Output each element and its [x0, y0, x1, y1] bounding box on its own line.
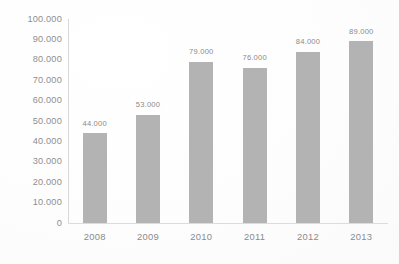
y-axis-tick-label: 10.000	[0, 198, 62, 207]
bar-group: 44.000	[68, 19, 121, 223]
bar-group: 84.000	[281, 19, 334, 223]
plot-area: 44.00053.00079.00076.00084.00089.000	[68, 19, 388, 223]
bar-group: 89.000	[335, 19, 388, 223]
x-axis-tick-label: 2011	[229, 232, 281, 241]
bar-value-label: 44.000	[65, 120, 125, 128]
y-axis-tick-label: 100.000	[0, 15, 62, 24]
x-axis: 200820092010201120122013	[68, 232, 388, 254]
y-axis-tick-label: 40.000	[0, 137, 62, 146]
x-axis-tick-label: 2013	[335, 232, 387, 241]
bar-value-label: 84.000	[278, 38, 338, 46]
x-axis-tick-label: 2008	[69, 232, 121, 241]
bar[interactable]	[136, 115, 160, 223]
y-axis-tick-label: 0	[0, 219, 62, 228]
y-axis-tick-label: 20.000	[0, 178, 62, 187]
bar-group: 79.000	[175, 19, 228, 223]
bar-value-label: 79.000	[171, 48, 231, 56]
y-axis-tick-label: 80.000	[0, 55, 62, 64]
bar-chart: 010.00020.00030.00040.00050.00060.00070.…	[0, 0, 399, 264]
bar[interactable]	[349, 41, 373, 223]
bar-value-label: 89.000	[331, 28, 391, 36]
bar-value-label: 53.000	[118, 101, 178, 109]
x-axis-baseline	[68, 223, 388, 224]
y-axis-tick-label: 30.000	[0, 157, 62, 166]
y-axis: 010.00020.00030.00040.00050.00060.00070.…	[0, 0, 62, 264]
bar[interactable]	[83, 133, 107, 223]
y-axis-tick-label: 60.000	[0, 96, 62, 105]
x-axis-tick-label: 2010	[175, 232, 227, 241]
bar-group: 76.000	[228, 19, 281, 223]
bar[interactable]	[189, 62, 213, 223]
bar[interactable]	[296, 52, 320, 223]
bar[interactable]	[243, 68, 267, 223]
x-axis-tick-label: 2009	[122, 232, 174, 241]
bar-group: 53.000	[121, 19, 174, 223]
x-axis-tick-label: 2012	[282, 232, 334, 241]
y-axis-tick-label: 90.000	[0, 35, 62, 44]
y-axis-tick-label: 70.000	[0, 76, 62, 85]
bar-value-label: 76.000	[225, 54, 285, 62]
y-axis-tick-label: 50.000	[0, 117, 62, 126]
